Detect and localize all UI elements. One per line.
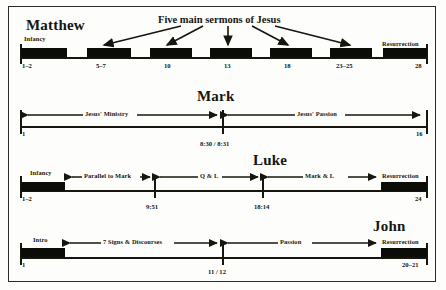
block-matthew-sermon-1 [87,48,131,57]
timeline-axis-john [20,257,428,259]
block-matthew-sermon-3 [210,48,252,57]
segment-label-john-resurrection: Resurrection [382,238,419,245]
chapter-label-matthew-end: 28 [415,62,422,69]
segment-label-luke-resurrection: Resurrection [382,172,419,179]
gospel-title-mark: Mark [197,88,234,105]
chapter-label-luke-end: 24 [415,195,422,202]
chapter-label-luke-1814: 18:14 [254,203,269,210]
axis-tick-john-mid [222,243,224,265]
block-john-intro [21,248,65,257]
callout-five-sermons: Five main sermons of Jesus [158,14,281,25]
segment-label-luke-q-and-l: Q & L [200,172,218,179]
gospel-title-john: John [373,218,406,235]
axis-tick-luke-1814 [262,176,264,198]
timeline-axis-luke [20,190,428,192]
chapter-label-matthew-sermon-2: 10 [164,62,171,69]
segment-label-mark-passion: Jesus' Passion [297,110,337,117]
chapter-label-mark-mid: 8:30 / 8:31 [200,140,229,147]
gospel-timeline-figure: Matthew Five main sermons of Jesus Infan… [0,0,446,290]
axis-end-cap-mark [426,110,428,134]
chapter-label-john-mid: 11 / 12 [208,268,226,275]
chapter-label-matthew-sermon-5: 23–25 [336,62,352,69]
segment-label-matthew-resurrection: Resurrection [382,40,419,47]
segment-label-luke-infancy: Infancy [30,169,52,176]
chapter-label-matthew-start: 1–2 [22,62,32,69]
block-matthew-resurrection [383,48,427,57]
chapter-label-matthew-sermon-1: 5–7 [96,62,106,69]
timeline-axis-mark [20,126,428,128]
segment-label-john-intro: Intro [33,236,48,243]
block-matthew-sermon-4 [270,48,312,57]
chapter-label-mark-start: 1 [22,130,25,137]
timeline-axis-matthew [20,57,428,59]
chapter-label-mark-end: 16 [416,130,423,137]
chapter-label-luke-951: 9:51 [146,203,158,210]
chapter-label-luke-start: 1–2 [22,195,32,202]
segment-label-john-signs: 7 Signs & Discourses [103,238,162,245]
segment-label-john-passion: Passion [280,238,301,245]
chapter-label-john-end: 20–21 [402,261,418,268]
block-luke-infancy [21,182,65,191]
gospel-title-luke: Luke [253,152,287,169]
axis-tick-mark-mid [222,110,224,134]
chapter-label-matthew-sermon-4: 18 [284,62,291,69]
gospel-title-matthew: Matthew [26,17,85,34]
chapter-label-john-start: 1 [22,261,25,268]
block-john-resurrection [381,248,427,257]
chapter-label-matthew-sermon-3: 13 [224,62,231,69]
block-matthew-sermon-5 [330,48,372,57]
segment-label-luke-mark-and-l: Mark & L [305,172,334,179]
axis-tick-luke-951 [154,176,156,198]
block-luke-resurrection [381,182,427,191]
segment-label-matthew-infancy: Infancy [24,35,46,42]
segment-label-luke-parallel: Parallel to Mark [84,172,131,179]
segment-label-mark-ministry: Jesus' Ministry [85,110,128,117]
block-matthew-sermon-2 [150,48,192,57]
block-matthew-infancy [21,48,67,57]
